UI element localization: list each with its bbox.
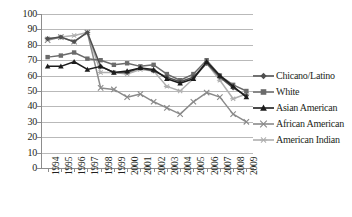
- legend-item-white[interactable]: White: [253, 84, 352, 100]
- data-point-cross: [191, 99, 196, 104]
- legend-label: Asian American: [276, 103, 337, 113]
- data-point-cross: [164, 105, 169, 110]
- data-point-square: [85, 56, 89, 60]
- y-axis-tick: [37, 45, 41, 46]
- data-point-asterisk: [71, 33, 77, 37]
- legend-label: White: [276, 87, 299, 97]
- y-axis-tick: [37, 153, 41, 154]
- x-axis-tick: [48, 168, 49, 172]
- data-point-cross: [244, 119, 249, 124]
- data-point-square: [112, 63, 116, 67]
- data-point-asterisk: [177, 89, 183, 93]
- x-axis-tick: [61, 168, 62, 172]
- legend-label: Chicano/Latino: [276, 71, 335, 81]
- x-axis-tick: [220, 168, 221, 172]
- legend-item-american-indian[interactable]: American Indian: [253, 132, 352, 148]
- x-axis-tick: [140, 168, 141, 172]
- data-point-square: [125, 61, 129, 65]
- legend-marker-asterisk-icon: [253, 133, 274, 147]
- y-axis-tick: [37, 122, 41, 123]
- legend-item-asian-american[interactable]: Asian American: [253, 100, 352, 116]
- data-point-triangle: [71, 59, 77, 64]
- data-point-square: [45, 55, 49, 59]
- legend-marker-diamond-icon: [253, 69, 274, 83]
- data-point-asterisk: [260, 137, 267, 142]
- series-chicano-latino: [45, 30, 249, 98]
- legend-label: African American: [276, 119, 344, 129]
- x-axis-tick: [74, 168, 75, 172]
- series-white: [45, 50, 248, 93]
- legend-item-chicano-latino[interactable]: Chicano/Latino: [253, 68, 352, 84]
- data-point-cross: [177, 111, 182, 116]
- data-point-square: [151, 63, 155, 67]
- data-point-square: [59, 53, 63, 57]
- y-axis-tick: [37, 137, 41, 138]
- y-axis-tick: [37, 76, 41, 77]
- y-axis-tick: [37, 60, 41, 61]
- x-axis-tick: [167, 168, 168, 172]
- data-point-asterisk: [230, 97, 236, 101]
- line-chart: 0102030405060708090100 19941995199619971…: [0, 0, 352, 217]
- x-axis-tick: [193, 168, 194, 172]
- x-axis-tick: [87, 168, 88, 172]
- y-axis-tick: [37, 91, 41, 92]
- data-point-square: [261, 89, 267, 95]
- x-axis-tick: [246, 168, 247, 172]
- legend-marker-triangle-icon: [253, 101, 274, 115]
- data-point-square: [72, 50, 76, 54]
- data-point-cross: [151, 99, 156, 104]
- x-axis-tick: [154, 168, 155, 172]
- x-axis-tick: [180, 168, 181, 172]
- y-axis-tick: [37, 14, 41, 15]
- y-axis-tick: [37, 29, 41, 30]
- data-point-square: [244, 89, 248, 93]
- x-axis-tick: [101, 168, 102, 172]
- series-line: [48, 62, 247, 97]
- chart-legend: Chicano/LatinoWhiteAsian AmericanAfrican…: [253, 68, 352, 148]
- x-axis-tick: [114, 168, 115, 172]
- x-axis-tick: [233, 168, 234, 172]
- y-axis-tick: [37, 106, 41, 107]
- legend-marker-cross-icon: [253, 117, 274, 131]
- data-point-asterisk: [164, 84, 170, 88]
- x-axis-tick: [207, 168, 208, 172]
- y-axis-tick: [37, 168, 41, 169]
- legend-label: American Indian: [276, 135, 340, 145]
- legend-marker-square-icon: [253, 85, 274, 99]
- x-axis-tick: [127, 168, 128, 172]
- data-point-cross: [230, 111, 235, 116]
- data-point-diamond: [260, 73, 266, 79]
- legend-item-african-american[interactable]: African American: [253, 116, 352, 132]
